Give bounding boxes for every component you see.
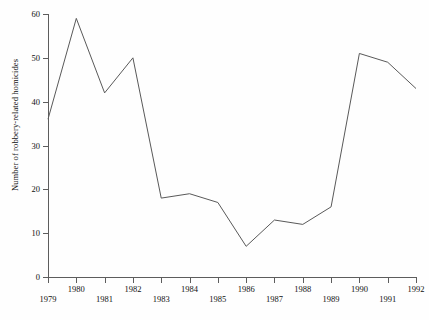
x-axis-tick — [388, 277, 389, 283]
y-axis-tick-label-wrap: 0 — [0, 277, 48, 278]
y-axis-tick-label: 10 — [18, 229, 40, 238]
y-axis-tick-label: 0 — [18, 273, 40, 282]
y-axis-tick-label-wrap: 40 — [0, 102, 48, 103]
x-axis-tick — [190, 277, 191, 283]
y-axis-tick-label: 30 — [18, 142, 40, 151]
x-axis-tick — [303, 277, 304, 283]
y-axis-tick-label: 50 — [18, 54, 40, 63]
chart-figure: Number of robbery-related homicides 0102… — [0, 0, 429, 320]
x-axis-tick — [359, 277, 360, 283]
x-axis-tick-label: 1989 — [311, 295, 351, 304]
x-axis-tick — [274, 277, 275, 283]
x-axis-tick-label: 1979 — [28, 295, 68, 304]
x-axis-tick-label: 1990 — [339, 285, 379, 294]
x-axis-tick-label: 1991 — [368, 295, 408, 304]
x-axis-tick — [416, 277, 417, 283]
x-axis-tick — [76, 277, 77, 283]
y-axis-tick-label-wrap: 10 — [0, 233, 48, 234]
y-axis-line — [48, 14, 49, 278]
x-axis-tick — [218, 277, 219, 283]
y-axis-tick-label-wrap: 60 — [0, 14, 48, 15]
y-axis-tick-label: 60 — [18, 10, 40, 19]
y-axis-tick-label: 40 — [18, 98, 40, 107]
x-axis-tick — [246, 277, 247, 283]
series-line-robbery-related-homicides — [0, 0, 429, 320]
x-axis-tick-label: 1985 — [198, 295, 238, 304]
y-axis-tick-label-wrap: 20 — [0, 189, 48, 190]
x-axis-tick-label: 1986 — [226, 285, 266, 294]
y-axis-tick-label: 20 — [18, 185, 40, 194]
x-axis-tick — [48, 277, 49, 283]
x-axis-tick-label: 1992 — [396, 285, 429, 294]
x-axis-tick-label: 1988 — [283, 285, 323, 294]
y-axis-tick-label-wrap: 30 — [0, 146, 48, 147]
x-axis-tick — [331, 277, 332, 283]
x-axis-tick-label: 1982 — [113, 285, 153, 294]
x-axis-tick — [105, 277, 106, 283]
x-axis-tick-label: 1981 — [85, 295, 125, 304]
x-axis-tick-label: 1980 — [56, 285, 96, 294]
x-axis-tick-label: 1983 — [141, 295, 181, 304]
x-axis-line — [48, 277, 416, 278]
y-axis-tick-label-wrap: 50 — [0, 58, 48, 59]
x-axis-tick — [161, 277, 162, 283]
x-axis-tick-label: 1987 — [254, 295, 294, 304]
x-axis-tick-label: 1984 — [170, 285, 210, 294]
x-axis-tick — [133, 277, 134, 283]
